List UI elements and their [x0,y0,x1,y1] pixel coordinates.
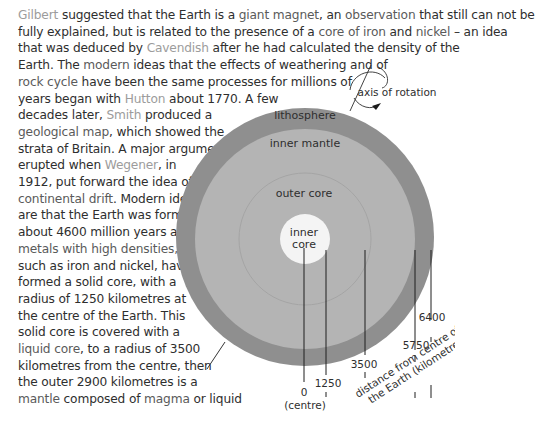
tick-3500: 3500 [351,358,378,370]
tick-6400: 6400 [419,311,446,323]
pointer-line [207,342,225,369]
axis-of-rotation-label: axis of rotation [357,86,436,98]
text-segment: – an idea [450,25,508,39]
tick-1250: 1250 [315,377,342,389]
outer-core-label: outer core [276,187,333,200]
inner-mantle-label: inner mantle [270,137,341,150]
tick-0: 0 [301,386,308,398]
lithosphere-label: lithosphere [274,109,336,122]
tick-0-sub: (centre) [284,399,326,411]
